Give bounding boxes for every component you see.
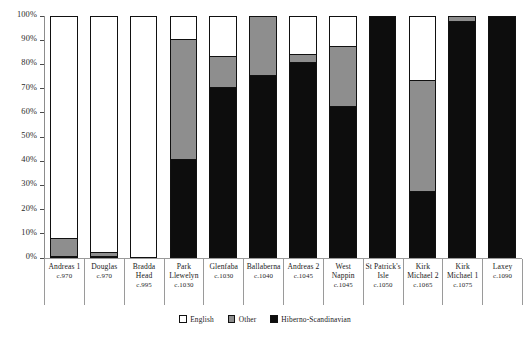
stacked-bar[interactable]: [409, 16, 437, 258]
bar-slot: [243, 16, 283, 258]
stacked-bar[interactable]: [289, 16, 317, 258]
bar-slot: [482, 16, 522, 258]
bar-segment: [210, 16, 236, 56]
x-axis-category: Park Llewelync.1030: [164, 259, 204, 305]
stacked-bar[interactable]: [329, 16, 357, 258]
bar-segment: [410, 80, 436, 191]
bar-segment: [171, 39, 197, 160]
bar-segment: [91, 16, 117, 252]
y-axis-tick-label: 80%: [21, 58, 44, 67]
x-axis-category-date: c.1030: [204, 271, 243, 280]
bar-segment: [330, 107, 356, 257]
x-axis-category: Douglasc.970: [84, 259, 124, 305]
bar-slot: [442, 16, 482, 258]
x-axis-category-name: Ballaberna: [244, 259, 283, 271]
y-axis-tick-label: 40%: [21, 155, 44, 164]
legend-label: Other: [239, 315, 257, 324]
bar-slot: [403, 16, 443, 258]
bar-segment: [449, 16, 475, 22]
x-axis-category: Ballabernac.1040: [243, 259, 283, 305]
stacked-bar[interactable]: [170, 16, 198, 258]
bar-segment: [290, 16, 316, 54]
y-axis-tick-label: 0%: [26, 252, 44, 261]
plot-area: [44, 16, 522, 258]
x-axis-category-date: c.1045: [324, 280, 363, 289]
chart-legend: EnglishOtherHiberno-Scandinavian: [0, 314, 530, 324]
y-axis-tick-label: 50%: [21, 131, 44, 140]
bar-slot: [203, 16, 243, 258]
legend-item[interactable]: English: [179, 315, 214, 324]
y-axis-tick-label: 70%: [21, 83, 44, 92]
stacked-bar[interactable]: [249, 16, 277, 258]
x-axis-category-date: c.1075: [443, 280, 482, 289]
bar-segment: [449, 22, 475, 257]
x-axis-category: Glenfabac.1030: [203, 259, 243, 305]
x-axis-category: St Patrick's Islec.1050: [363, 259, 403, 305]
y-axis-tick: 70%: [0, 83, 44, 95]
x-axis-category: West Nappinc.1045: [323, 259, 363, 305]
x-axis-category-date: c.1090: [483, 271, 522, 280]
legend-item[interactable]: Other: [228, 315, 257, 324]
bar-slot: [44, 16, 84, 258]
bar-segment: [370, 16, 396, 257]
x-axis-category-date: c.1065: [404, 280, 443, 289]
stacked-bar[interactable]: [90, 16, 118, 258]
bar-segment: [330, 16, 356, 46]
x-axis-category-name: Andreas 1: [45, 259, 84, 271]
y-axis-tick: 50%: [0, 131, 44, 143]
legend-swatch-icon: [270, 315, 278, 323]
x-axis-category-name: Douglas: [85, 259, 124, 271]
x-axis-category: Kirk Michael 2c.1065: [403, 259, 443, 305]
bar-slot: [323, 16, 363, 258]
bar-segment: [171, 16, 197, 39]
bar-segment: [290, 63, 316, 257]
legend-item[interactable]: Hiberno-Scandinavian: [270, 315, 351, 324]
y-axis-tick: 90%: [0, 34, 44, 46]
x-axis-category-date: c.1050: [364, 280, 403, 289]
bar-slot: [84, 16, 124, 258]
y-axis: 0%10%20%30%40%50%60%70%80%90%100%: [0, 10, 44, 262]
x-axis-category-date: c.1040: [244, 271, 283, 280]
bar-slot: [164, 16, 204, 258]
legend-swatch-icon: [179, 315, 187, 323]
x-axis-category-name: Bradda Head: [125, 259, 164, 280]
y-axis-tick: 40%: [0, 155, 44, 167]
stacked-bar[interactable]: [369, 16, 397, 258]
x-axis-category-name: Laxey: [483, 259, 522, 271]
bar-segment: [171, 160, 197, 257]
x-axis-category-name: St Patrick's Isle: [364, 259, 403, 280]
x-axis-category-name: Glenfaba: [204, 259, 243, 271]
bar-slot: [124, 16, 164, 258]
y-axis-tick-label: 30%: [21, 179, 44, 188]
y-axis-tick: 60%: [0, 107, 44, 119]
bar-segment: [210, 56, 236, 87]
stacked-bar[interactable]: [130, 16, 158, 258]
y-axis-tick-label: 20%: [21, 204, 44, 213]
y-axis-tick-label: 60%: [21, 107, 44, 116]
bar-segment: [410, 192, 436, 257]
y-axis-tick: 30%: [0, 179, 44, 191]
legend-label: English: [190, 315, 214, 324]
y-axis-tick-label: 10%: [21, 228, 44, 237]
x-axis-category: Andreas 1c.970: [44, 259, 84, 305]
stacked-bar-chart: 0%10%20%30%40%50%60%70%80%90%100% Andrea…: [0, 0, 530, 347]
stacked-bar[interactable]: [448, 16, 476, 258]
y-axis-tick: 0%: [0, 252, 44, 264]
bar-slot: [283, 16, 323, 258]
x-axis-labels: Andreas 1c.970Douglasc.970Bradda Headc.9…: [44, 259, 522, 305]
stacked-bar[interactable]: [488, 16, 516, 258]
y-axis-tick: 20%: [0, 204, 44, 216]
stacked-bar[interactable]: [209, 16, 237, 258]
legend-label: Hiberno-Scandinavian: [281, 315, 351, 324]
stacked-bar[interactable]: [50, 16, 78, 258]
y-axis-tick: 10%: [0, 228, 44, 240]
bar-segment: [330, 46, 356, 107]
bar-segment: [489, 16, 515, 257]
bar-segment: [210, 88, 236, 257]
bar-segment: [290, 54, 316, 64]
x-axis-category-date: c.1045: [284, 271, 323, 280]
x-axis-category-name: West Nappin: [324, 259, 363, 280]
x-axis-category-name: Park Llewelyn: [165, 259, 204, 280]
x-axis-category: Kirk Michael 1c.1075: [442, 259, 482, 305]
x-axis-category: Bradda Headc.995: [124, 259, 164, 305]
